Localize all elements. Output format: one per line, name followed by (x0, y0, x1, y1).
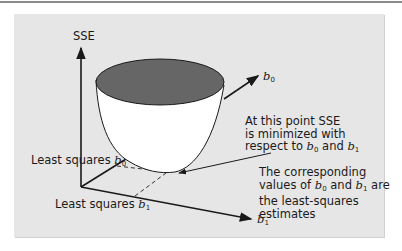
bowl-top (96, 59, 224, 105)
least-squares-b0-label: Least squares b0 (31, 154, 126, 170)
estimates-annotation: The corresponding values of b0 and b1 ar… (259, 166, 390, 220)
sse-axis-label: SSE (73, 30, 95, 42)
b0-axis-label: b0 (263, 70, 275, 86)
b0-axis-back (224, 76, 258, 99)
projection-b1 (135, 173, 166, 196)
minimum-annotation: At this point SSE is minimized with resp… (245, 115, 359, 157)
least-squares-b1-label: Least squares b1 (55, 198, 150, 214)
